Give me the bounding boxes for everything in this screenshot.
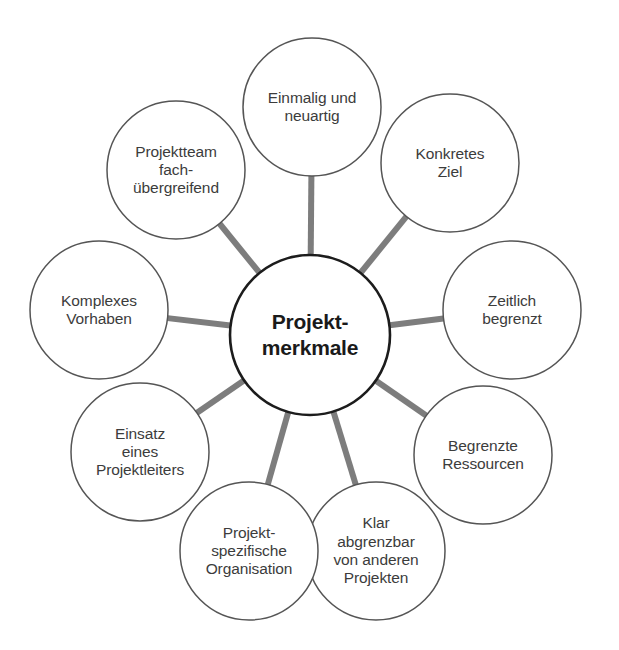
connector-zeitlich	[387, 318, 445, 325]
connector-projektleiter	[195, 379, 246, 414]
connector-abgrenzbar	[333, 410, 357, 487]
connector-ressourcen	[374, 379, 428, 416]
node-circle-organisation[interactable]	[180, 482, 318, 620]
connector-organisation	[267, 410, 289, 486]
figure-caption	[0, 640, 619, 650]
circles-group	[30, 38, 581, 620]
connector-komplexes	[166, 318, 233, 326]
node-circle-abgrenzbar[interactable]	[307, 482, 445, 620]
node-circle-ressourcen[interactable]	[414, 386, 552, 524]
node-circle-einmalig[interactable]	[243, 38, 381, 176]
node-circle-projektteam[interactable]	[107, 101, 245, 239]
node-circle-projektleiter[interactable]	[71, 383, 209, 521]
project-characteristics-diagram: Einmalig und neuartigKonkretes ZielZeitl…	[0, 0, 619, 650]
connector-einmalig	[311, 174, 312, 257]
center-hub-circle[interactable]	[230, 255, 390, 415]
connector-projektteam	[218, 222, 261, 274]
node-circle-komplexes[interactable]	[30, 241, 168, 379]
diagram-canvas	[0, 0, 619, 650]
node-circle-konkretes-ziel[interactable]	[381, 94, 519, 232]
node-circle-zeitlich[interactable]	[443, 241, 581, 379]
connector-konkretes-ziel	[359, 215, 407, 275]
